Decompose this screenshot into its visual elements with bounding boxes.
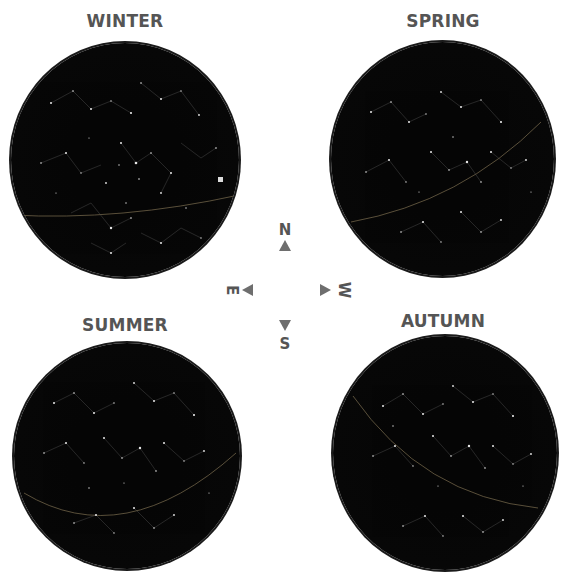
- constellation-lines: [366, 92, 526, 242]
- ecliptic-line: [24, 453, 236, 516]
- moon-marker: [218, 177, 223, 182]
- ecliptic-line: [11, 195, 239, 216]
- autumn-sky-map: [333, 336, 557, 570]
- season-label-winter: WINTER: [65, 11, 185, 31]
- compass-east-label: E: [224, 280, 240, 300]
- star-chart-winter: [11, 43, 239, 277]
- stars: [365, 91, 531, 243]
- ecliptic-line: [351, 122, 541, 222]
- season-label-summer: SUMMER: [65, 315, 185, 335]
- constellation-lines: [41, 83, 216, 253]
- stars: [40, 82, 217, 254]
- star-chart-spring: [331, 42, 554, 276]
- season-label-autumn: AUTUMN: [383, 311, 503, 331]
- compass-north-label: N: [275, 222, 295, 238]
- compass-south-label: S: [275, 336, 295, 352]
- west-arrow-icon: [320, 284, 331, 296]
- summer-sky-map: [14, 343, 240, 569]
- compass-west-label: W: [336, 280, 352, 300]
- south-arrow-icon: [279, 320, 291, 331]
- stars: [372, 385, 532, 537]
- winter-sky-map: [11, 43, 239, 277]
- constellation-lines: [44, 383, 204, 533]
- constellation-lines: [373, 386, 531, 536]
- star-chart-autumn: [333, 336, 557, 570]
- season-label-spring: SPRING: [383, 11, 503, 31]
- north-arrow-icon: [279, 240, 291, 251]
- east-arrow-icon: [242, 284, 253, 296]
- star-chart-summer: [14, 343, 240, 569]
- spring-sky-map: [331, 42, 554, 276]
